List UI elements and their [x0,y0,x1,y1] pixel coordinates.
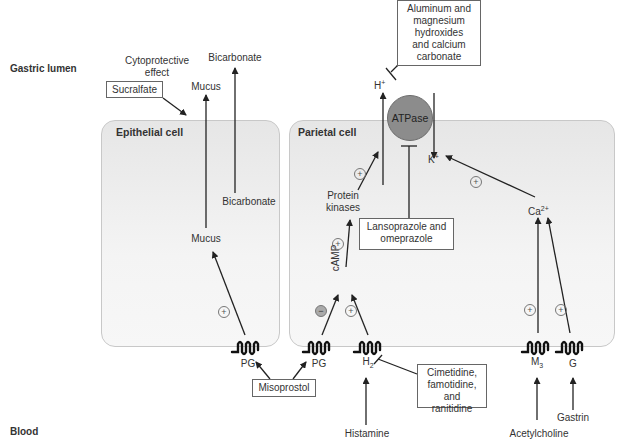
label-receptor-pg-parietal: PG [309,358,329,370]
drug-box-ppi: Lansoprazole and omeprazole [359,218,454,250]
receptor-h2 [354,342,380,354]
receptor-m3 [522,342,548,354]
minus-icon: − [315,305,327,317]
plus-icon: + [332,238,344,250]
label-receptor-pg-epithelial: PG [238,358,258,370]
label-bicarbonate-lumen: Bicarbonate [205,52,265,64]
plus-icon: + [524,304,536,316]
label-receptor-m3: M3 [527,356,547,372]
label-mucus-lumen: Mucus [186,81,226,93]
drug-box-h2-blockers: Cimetidine, famotidine, and ranitidine [417,364,487,408]
label-histamine: Histamine [340,428,394,440]
pathway-arrows [0,0,619,444]
plus-icon: + [345,305,357,317]
plus-icon: + [354,168,366,180]
label-receptor-g: G [563,358,583,370]
plus-icon: + [218,306,230,318]
label-acetylcholine: Acetylcholine [506,428,572,440]
label-h-ion: H+ [374,77,385,92]
label-calcium: Ca2+ [528,203,549,218]
label-cytoprotective-effect: Cytoprotective effect [112,55,202,78]
atpase-pump: ATPase [387,95,433,141]
label-gastrin: Gastrin [553,412,593,424]
plus-icon: + [555,304,567,316]
label-mucus-cell: Mucus [186,233,226,245]
plus-icon: + [470,176,482,188]
label-protein-kinases: Protein kinases [318,190,368,213]
receptor-pg-epithelial [232,342,258,354]
drug-box-misoprostol: Misoprostol [252,379,316,397]
receptor-pg-parietal [303,342,329,354]
receptor-g [556,342,582,354]
label-receptor-h2: H2 [358,356,378,372]
drug-box-sucralfate: Sucralfate [106,81,163,98]
label-k-ion: K+ [428,151,439,166]
drug-box-antacids: Aluminum and magnesium hydroxides and ca… [397,0,481,66]
label-bicarbonate-cell: Bicarbonate [219,196,279,208]
